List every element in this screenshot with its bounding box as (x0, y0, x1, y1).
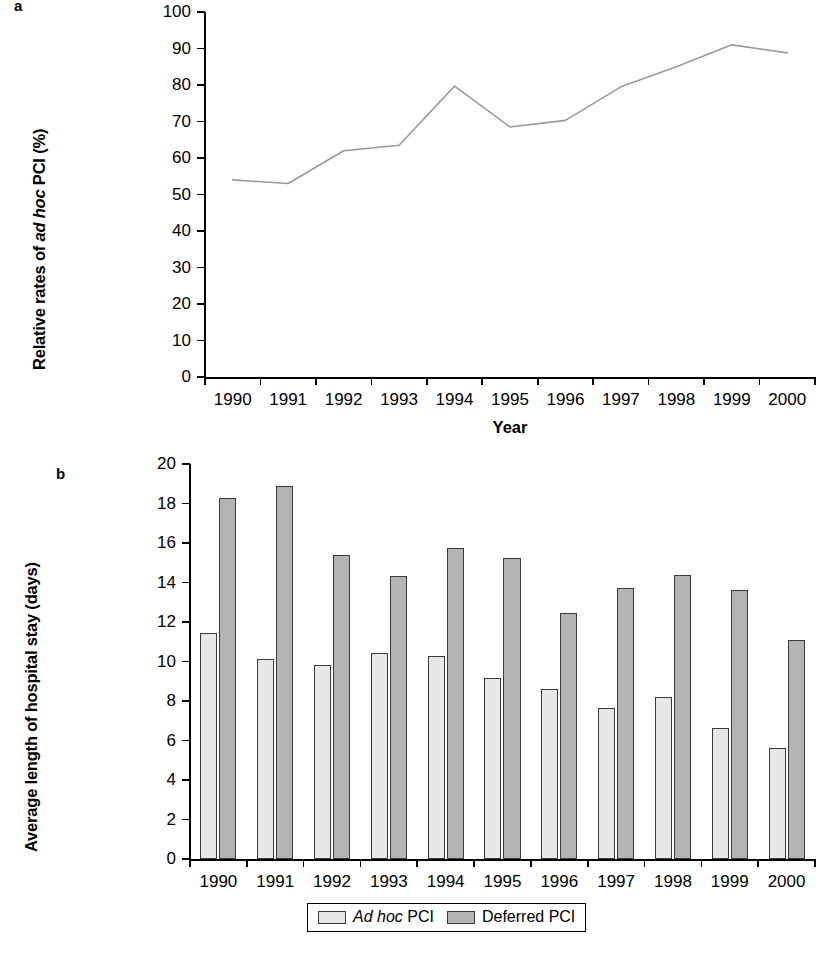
panel-a-y-tick-30 (197, 267, 205, 269)
bar-1998-deferred (674, 575, 691, 859)
panel-a-x-tick-end (814, 377, 816, 385)
bar-1999-ad-hoc (712, 728, 729, 859)
bar-1994-ad-hoc (428, 656, 445, 859)
panel-b-y-tick-4 (182, 779, 190, 781)
panel-b-y-tick-8 (182, 700, 190, 702)
panel-a-y-tick-label-60: 60 (133, 148, 191, 168)
bar-1990-deferred (219, 498, 236, 859)
legend-label-ad-hoc-post: PCI (403, 908, 434, 925)
panel-a-x-tick-2000 (759, 377, 761, 385)
panel-a-x-tick-1991 (260, 377, 262, 385)
legend-label-deferred-pci: Deferred PCI (482, 908, 575, 926)
panel-b-y-tick-6 (182, 740, 190, 742)
bar-1992-ad-hoc (314, 665, 331, 859)
bar-1994-deferred (447, 548, 464, 859)
panel-a-x-tick-label-2000: 2000 (732, 390, 821, 410)
panel-a-y-tick-40 (197, 230, 205, 232)
bar-2000-ad-hoc (769, 748, 786, 859)
bar-group-1991 (247, 464, 304, 859)
panel-b-y-tick-10 (182, 661, 190, 663)
bar-chart-average-length-hospital-stay: Average length of hospital stay (days) 0… (0, 452, 821, 966)
panel-a-x-axis-title: Year (205, 418, 815, 437)
panel-b-x-tick-1992 (303, 859, 305, 867)
panel-b-y-tick-label-14: 14 (126, 573, 176, 593)
panel-b-y-tick-label-6: 6 (126, 731, 176, 751)
panel-b-y-tick-label-18: 18 (126, 494, 176, 514)
panel-a-x-tick-1992 (315, 377, 317, 385)
bar-group-1999 (701, 464, 758, 859)
panel-a-x-tick-1998 (648, 377, 650, 385)
panel-b-y-tick-16 (182, 542, 190, 544)
bar-1991-deferred (276, 486, 293, 859)
panel-b-y-tick-label-0: 0 (126, 849, 176, 869)
panel-a-y-tick-60 (197, 157, 205, 159)
bar-group-1994 (417, 464, 474, 859)
panel-a-x-axis-line (204, 377, 814, 379)
panel-b-y-tick-label-8: 8 (126, 691, 176, 711)
panel-a-y-tick-label-70: 70 (133, 112, 191, 132)
panel-b-x-tick-1996 (530, 859, 532, 867)
panel-a-x-tick-1993 (371, 377, 373, 385)
panel-a-x-tick-1990 (204, 377, 206, 385)
panel-a-x-tick-1996 (537, 377, 539, 385)
legend-item-deferred-pci[interactable]: Deferred PCI (447, 908, 575, 926)
bar-group-1996 (531, 464, 588, 859)
panel-b-y-tick-label-4: 4 (126, 770, 176, 790)
bar-2000-deferred (788, 640, 805, 859)
bar-group-1997 (588, 464, 645, 859)
panel-a-y-tick-label-30: 30 (133, 258, 191, 278)
panel-a-y-tick-50 (197, 194, 205, 196)
bar-1997-deferred (617, 588, 634, 859)
panel-b-x-tick-1990 (189, 859, 191, 867)
panel-a-y-tick-90 (197, 48, 205, 50)
bar-group-1998 (645, 464, 702, 859)
bar-1991-ad-hoc (257, 659, 274, 859)
panel-a-y-tick-80 (197, 84, 205, 86)
panel-b-x-axis-line (189, 859, 814, 861)
y-axis-title-pre: Relative rates of (30, 242, 48, 370)
panel-a-x-tick-1994 (426, 377, 428, 385)
panel-a-x-tick-1995 (481, 377, 483, 385)
legend-swatch-deferred-icon (447, 911, 475, 924)
legend-label-ad-hoc-italic: Ad hoc (353, 908, 403, 925)
bar-1993-deferred (390, 576, 407, 859)
bar-group-1993 (360, 464, 417, 859)
bar-1998-ad-hoc (655, 697, 672, 859)
legend-label-ad-hoc-pci: Ad hoc PCI (353, 908, 434, 926)
panel-b-x-tick-1995 (473, 859, 475, 867)
panel-b-x-tick-1991 (246, 859, 248, 867)
panel-b-x-tick-1997 (587, 859, 589, 867)
legend-swatch-ad-hoc-icon (318, 911, 346, 924)
bar-group-1992 (304, 464, 361, 859)
panel-a-y-tick-label-0: 0 (133, 367, 191, 387)
panel-a-y-tick-label-10: 10 (133, 331, 191, 351)
panel-a-y-axis-title: Relative rates of ad hoc PCI (%) (30, 129, 49, 370)
panel-b-legend: Ad hoc PCI Deferred PCI (307, 903, 586, 932)
panel-b-x-tick-end (814, 859, 816, 867)
panel-b-y-tick-label-20: 20 (126, 454, 176, 474)
panel-a-y-tick-label-50: 50 (133, 185, 191, 205)
bar-1997-ad-hoc (598, 708, 615, 859)
panel-b-y-tick-14 (182, 582, 190, 584)
y-axis-title-post: PCI (%) (30, 129, 48, 190)
panel-a-line-series (205, 12, 815, 377)
panel-a-y-tick-label-90: 90 (133, 39, 191, 59)
panel-b-x-tick-1994 (416, 859, 418, 867)
bar-group-1990 (190, 464, 247, 859)
bar-1996-ad-hoc (541, 689, 558, 859)
y-axis-title-italic: ad hoc (30, 190, 48, 242)
bar-1996-deferred (560, 613, 577, 859)
panel-a-y-tick-label-20: 20 (133, 294, 191, 314)
panel-b-y-tick-label-16: 16 (126, 533, 176, 553)
legend-item-ad-hoc-pci[interactable]: Ad hoc PCI (318, 908, 434, 926)
panel-a-y-tick-label-100: 100 (133, 2, 191, 22)
panel-a-y-tick-100 (197, 11, 205, 13)
bar-group-2000 (758, 464, 815, 859)
panel-a-y-tick-70 (197, 121, 205, 123)
panel-b-y-tick-label-2: 2 (126, 810, 176, 830)
bar-1990-ad-hoc (200, 633, 217, 859)
panel-b-x-tick-2000 (757, 859, 759, 867)
panel-b-y-tick-2 (182, 819, 190, 821)
panel-b-y-tick-label-12: 12 (126, 612, 176, 632)
panel-a-y-tick-10 (197, 340, 205, 342)
